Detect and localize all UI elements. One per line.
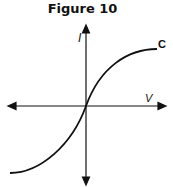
x-axis-label: V: [145, 92, 154, 104]
iv-diagram: I V C: [0, 0, 173, 187]
y-axis-bottom-arrow-icon: [83, 177, 90, 185]
y-axis-label: I: [78, 31, 82, 45]
curve-label: C: [158, 38, 166, 50]
curve-c: [10, 49, 157, 173]
x-axis-right-arrow-icon: [158, 103, 166, 110]
y-axis-top-arrow-icon: [83, 25, 90, 33]
x-axis-left-arrow-icon: [8, 103, 16, 110]
